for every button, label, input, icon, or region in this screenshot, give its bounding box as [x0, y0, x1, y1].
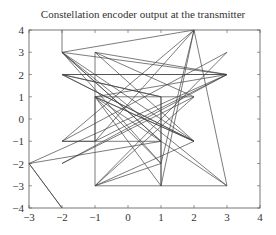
x-tick-label: 2	[191, 211, 197, 223]
constellation-chart: Constellation encoder output at the tran…	[0, 0, 276, 235]
x-tick-label: −3	[23, 211, 35, 223]
y-tick-label: −1	[12, 135, 24, 147]
x-tick-label: −1	[89, 211, 101, 223]
y-tick-label: 2	[19, 69, 25, 81]
y-tick-label: −4	[12, 202, 24, 214]
x-tick-label: 3	[224, 211, 230, 223]
x-tick-label: −2	[56, 211, 68, 223]
x-tick-label: 0	[125, 211, 131, 223]
y-tick-label: 1	[19, 91, 25, 103]
constellation-path	[29, 30, 227, 208]
y-tick-label: 0	[19, 113, 25, 125]
x-tick-label: 1	[158, 211, 164, 223]
chart-title: Constellation encoder output at the tran…	[41, 8, 246, 20]
y-tick-label: −2	[12, 158, 24, 170]
x-axis-ticks: −3−2−101234	[23, 30, 263, 223]
y-tick-label: 3	[19, 46, 25, 58]
y-tick-label: −3	[12, 180, 24, 192]
x-tick-label: 4	[257, 211, 263, 223]
constellation-trajectory	[29, 30, 227, 208]
y-tick-label: 4	[19, 24, 25, 36]
